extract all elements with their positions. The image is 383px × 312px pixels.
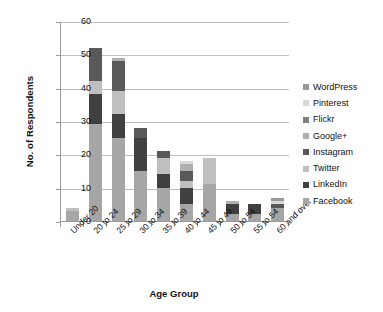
legend-item-flickr[interactable]: Flickr (303, 112, 383, 128)
legend-swatch-icon (303, 182, 309, 188)
x-tick-mark (60, 222, 61, 227)
legend-item-twitter[interactable]: Twitter (303, 160, 383, 176)
x-axis-title: Age Group (60, 288, 288, 299)
bar-segment-twitter (180, 181, 193, 188)
legend-label: Facebook (313, 197, 353, 206)
legend-swatch-icon (303, 100, 309, 106)
plot-area (60, 22, 288, 222)
legend-item-linkedin[interactable]: LinkedIn (303, 177, 383, 193)
legend-swatch-icon (303, 198, 309, 204)
bar-segment-linkedin (134, 138, 147, 171)
legend-swatch-icon (303, 133, 309, 139)
bar-segment-linkedin (157, 174, 170, 187)
bar-segment-linkedin (112, 114, 125, 137)
bar-segment-instagram (134, 128, 147, 138)
legend-swatch-icon (303, 166, 309, 172)
bar-segment-instagram (112, 61, 125, 91)
legend-swatch-icon (303, 117, 309, 123)
bar-segment-instagram (180, 171, 193, 181)
bar-segment-twitter (203, 158, 216, 185)
bar-segment-linkedin (180, 188, 193, 205)
legend-swatch-icon (303, 149, 309, 155)
legend-label: Google+ (313, 132, 347, 141)
y-tick-label: 50 (65, 50, 91, 59)
bar-chart: No. of Respondents 0102030405060 Under 2… (0, 0, 383, 312)
legend-label: Pinterest (313, 99, 349, 108)
legend-item-googleplus[interactable]: Google+ (303, 128, 383, 144)
y-tick-mark (56, 55, 60, 56)
legend-item-pinterest[interactable]: Pinterest (303, 95, 383, 111)
y-tick-label: 60 (65, 17, 91, 26)
bar-20-to-24 (89, 48, 102, 221)
legend-label: LinkedIn (313, 180, 347, 189)
legend-label: Twitter (313, 164, 340, 173)
y-tick-mark (56, 89, 60, 90)
y-tick-label: 20 (65, 150, 91, 159)
legend-item-instagram[interactable]: Instagram (303, 144, 383, 160)
y-axis-title: No. of Respondents (24, 37, 35, 207)
gridline (61, 22, 289, 23)
y-tick-mark (56, 122, 60, 123)
legend-item-facebook[interactable]: Facebook (303, 193, 383, 209)
bar-segment-instagram (157, 151, 170, 158)
bar-25-to-29 (112, 58, 125, 221)
legend-item-wordpress[interactable]: WordPress (303, 79, 383, 95)
y-tick-mark (56, 155, 60, 156)
y-tick-mark (56, 22, 60, 23)
legend-swatch-icon (303, 84, 309, 90)
legend-label: WordPress (313, 83, 357, 92)
legend-label: Flickr (313, 115, 335, 124)
y-tick-label: 30 (65, 117, 91, 126)
y-tick-label: 40 (65, 84, 91, 93)
bar-segment-twitter (157, 158, 170, 175)
legend-label: Instagram (313, 148, 353, 157)
bar-segment-twitter (112, 91, 125, 114)
y-tick-mark (56, 189, 60, 190)
chart-legend: WordPressPinterestFlickrGoogle+Instagram… (303, 79, 383, 209)
bar-segment-google+ (180, 164, 193, 171)
y-tick-label: 10 (65, 184, 91, 193)
